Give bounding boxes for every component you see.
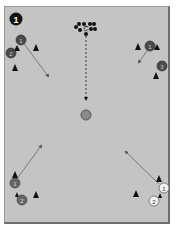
cone-icon (33, 44, 39, 51)
player-dark-2c: 2 (17, 195, 27, 205)
cone-icon (153, 72, 159, 79)
player-dark-1a: 1 (16, 35, 26, 45)
drill-diagram: 1 C 1 2 (0, 0, 177, 229)
coach-label: C (83, 25, 88, 32)
cone-icon (158, 193, 162, 198)
center-target-disc (81, 110, 91, 120)
cone-icons (12, 43, 162, 198)
player-dark-1b: 1 (145, 41, 155, 51)
player-dark-2a: 2 (6, 48, 16, 58)
player-light-1: 1 (159, 183, 169, 193)
cone-icon (133, 190, 139, 197)
cone-icon (12, 171, 18, 178)
player-dark-3: 3 (157, 61, 167, 71)
run-arrow-bottom-left (16, 146, 41, 180)
svg-text:1: 1 (13, 15, 18, 25)
cone-icon (135, 43, 141, 50)
coach-with-balls: C (74, 22, 97, 36)
player-dark-1c: 1 (10, 178, 20, 188)
run-arrow-top-left (22, 41, 48, 76)
step-number-badge: 1 (10, 13, 23, 26)
cone-icon (33, 191, 39, 198)
run-arrow-bottom-right (126, 152, 159, 184)
player-light-2: 2 (149, 196, 159, 206)
cone-icon (156, 175, 162, 182)
cone-icon (12, 64, 18, 71)
